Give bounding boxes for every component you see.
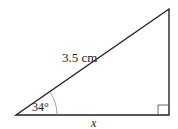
triangle-diagram: 3.5 cm 34° x xyxy=(0,0,178,129)
angle-label: 34° xyxy=(32,100,49,114)
angle-arc xyxy=(50,92,57,115)
right-angle-marker xyxy=(158,105,169,115)
hypotenuse-label: 3.5 cm xyxy=(62,50,97,65)
base-label: x xyxy=(90,116,97,129)
